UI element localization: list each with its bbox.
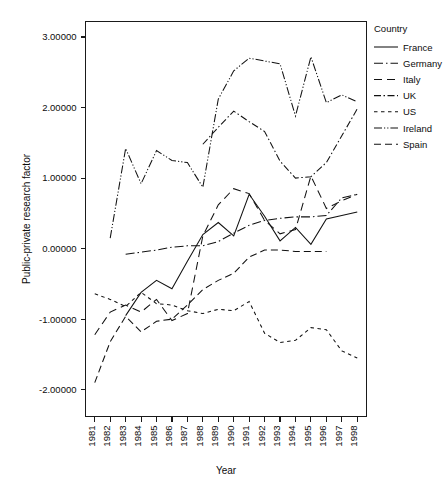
legend-title: Country xyxy=(374,23,408,34)
x-tick-label: 1993 xyxy=(271,426,282,447)
series-line-germany xyxy=(126,194,358,254)
x-tick-label: 1997 xyxy=(333,426,344,447)
series-line-ireland xyxy=(110,57,357,238)
x-tick-label: 1984 xyxy=(132,426,143,447)
y-tick-label: -2.00000 xyxy=(39,384,77,395)
x-tick-label: 1987 xyxy=(178,426,189,447)
series-line-france xyxy=(126,194,358,315)
x-tick-label: 1990 xyxy=(225,426,236,447)
legend-label-germany[interactable]: Germany xyxy=(403,58,442,69)
series-line-spain xyxy=(95,250,327,383)
x-tick-label: 1995 xyxy=(302,426,313,447)
x-tick-label: 1981 xyxy=(86,426,97,447)
x-tick-label: 1992 xyxy=(256,426,267,447)
y-tick-label: 1.00000 xyxy=(42,172,76,183)
legend-label-spain[interactable]: Spain xyxy=(403,139,427,150)
x-tick-label: 1988 xyxy=(194,426,205,447)
chart-figure: -2.00000-1.000000.000001.000002.000003.0… xyxy=(0,0,447,482)
x-axis-title: Year xyxy=(216,465,237,476)
y-tick-label: 0.00000 xyxy=(42,243,76,254)
y-tick-label: 3.00000 xyxy=(42,31,76,42)
legend-entries: FranceGermanyItalyUKUSIrelandSpain xyxy=(374,42,442,150)
legend-label-france[interactable]: France xyxy=(403,42,433,53)
x-tick-label: 1986 xyxy=(163,426,174,447)
y-tick-label: 2.00000 xyxy=(42,102,76,113)
x-tick-label: 1996 xyxy=(317,426,328,447)
x-tick-label: 1983 xyxy=(117,426,128,447)
x-tick-label: 1994 xyxy=(286,426,297,447)
x-tick-label: 1991 xyxy=(240,426,251,447)
line-chart-svg: -2.00000-1.000000.000001.000002.000003.0… xyxy=(0,0,447,482)
series-line-uk xyxy=(203,109,357,178)
legend-label-italy[interactable]: Italy xyxy=(403,74,421,85)
x-tick-label: 1989 xyxy=(209,426,220,447)
x-tick-label: 1998 xyxy=(348,426,359,447)
y-axis-title: Public-private research factor xyxy=(21,153,32,284)
legend-label-ireland[interactable]: Ireland xyxy=(403,123,432,134)
y-tick-label: -1.00000 xyxy=(39,314,77,325)
x-tick-label: 1982 xyxy=(101,426,112,447)
legend-label-us[interactable]: US xyxy=(403,106,416,117)
legend-label-uk[interactable]: UK xyxy=(403,90,417,101)
plot-frame xyxy=(86,22,367,417)
x-axis-ticks: 1981198219831984198519861987198819891990… xyxy=(86,417,359,447)
series-group xyxy=(95,57,357,383)
x-tick-label: 1985 xyxy=(148,426,159,447)
y-axis-ticks: -2.00000-1.000000.000001.000002.000003.0… xyxy=(39,31,86,395)
chart-legend: Country FranceGermanyItalyUKUSIrelandSpa… xyxy=(374,23,442,150)
series-line-italy xyxy=(95,176,357,335)
